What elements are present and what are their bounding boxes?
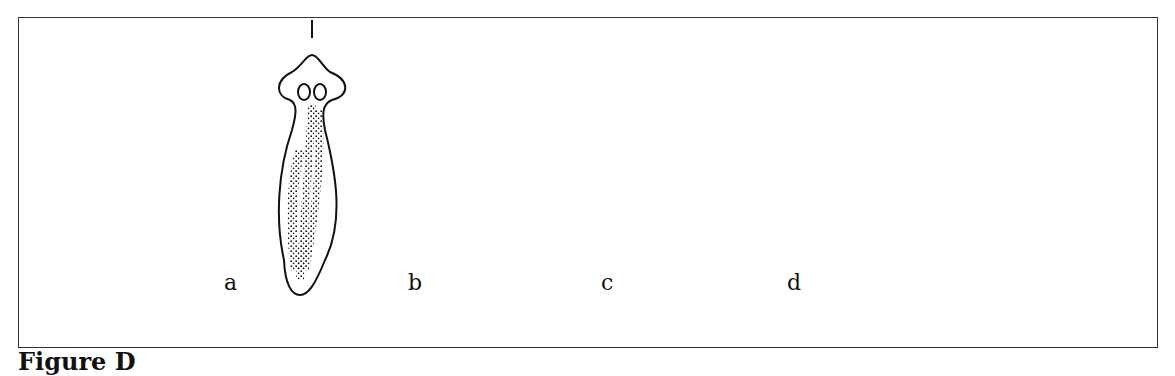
label-a: a [224,272,237,294]
label-d: d [787,272,801,294]
label-c: c [601,272,613,294]
eyespot-right-icon [314,84,326,100]
figure-caption: Figure D [18,350,135,374]
specimen-a [279,20,345,295]
eyespot-left-icon [298,84,310,100]
label-b: b [408,272,422,294]
body-outline [279,55,345,295]
